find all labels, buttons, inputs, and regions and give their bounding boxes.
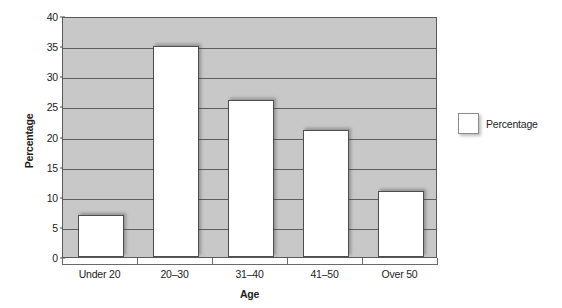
x-tick-label: 41–50 — [310, 268, 338, 280]
x-axis-title: Age — [62, 288, 437, 300]
x-tick-mark — [287, 258, 288, 265]
plot-area — [62, 17, 437, 258]
y-tick-label: 20 — [47, 132, 58, 144]
bar-chart: Percentage 0510152025303540 Under 2020–3… — [0, 0, 562, 308]
bar[interactable] — [78, 215, 124, 257]
y-axis-title-text: Percentage — [23, 114, 35, 169]
x-axis-tick-labels: Under 2020–3031–4041–50Over 50 — [62, 268, 437, 286]
y-tick-label: 35 — [47, 41, 58, 53]
bar-slot — [213, 18, 288, 257]
bar-slot — [363, 18, 438, 257]
bar[interactable] — [303, 130, 349, 257]
bar-slot — [138, 18, 213, 257]
legend: Percentage — [458, 113, 538, 134]
x-axis-line — [62, 264, 437, 265]
bars-layer — [63, 18, 436, 257]
y-tick-label: 15 — [47, 162, 58, 174]
y-tick-label: 10 — [47, 192, 58, 204]
y-tick-label: 40 — [47, 11, 58, 23]
x-tick-mark — [137, 258, 138, 265]
x-tick-label: Under 20 — [79, 268, 121, 280]
bar-slot — [63, 18, 138, 257]
bar[interactable] — [153, 46, 199, 257]
y-axis-ticks: 0510152025303540 — [36, 17, 58, 258]
x-tick-mark — [212, 258, 213, 265]
x-tick-label: 20–30 — [160, 268, 188, 280]
bar[interactable] — [228, 100, 274, 257]
y-tick-label: 25 — [47, 101, 58, 113]
y-tick-label: 5 — [52, 222, 58, 234]
x-tick-label: 31–40 — [235, 268, 263, 280]
x-tick-mark — [362, 258, 363, 265]
x-tick-mark — [62, 258, 63, 265]
legend-label-percentage: Percentage — [486, 118, 538, 130]
legend-swatch-percentage — [458, 113, 479, 134]
y-tick-label: 0 — [52, 252, 58, 264]
bar[interactable] — [378, 191, 424, 257]
x-tick-label: Over 50 — [382, 268, 418, 280]
y-tick-label: 30 — [47, 71, 58, 83]
bar-slot — [288, 18, 363, 257]
x-tick-mark — [437, 258, 438, 265]
